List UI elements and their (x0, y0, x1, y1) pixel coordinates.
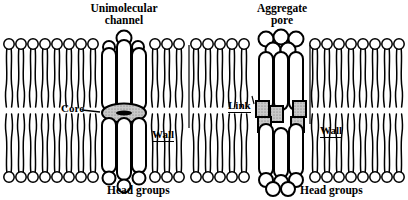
unimolecular-channel-title-line1: Unimolecular (76, 2, 172, 14)
diagram-canvas (0, 0, 408, 200)
head-groups-label-right: Head groups (300, 184, 363, 196)
membrane-channel-diagram: Unimolecular channel Aggregate pore Core… (0, 0, 408, 200)
aggregate-pore-title-line2: pore (238, 14, 326, 26)
upper-leaflet-lipids (4, 39, 404, 107)
lower-leaflet-lipids (4, 114, 404, 182)
wall-label-right: Wall (320, 125, 342, 138)
unimolecular-channel-title: Unimolecular channel (76, 2, 172, 26)
unimolecular-channel (82, 31, 146, 193)
aggregate-pore-title-line1: Aggregate (238, 2, 326, 14)
core-label: Core (61, 103, 84, 115)
wall-label-left: Wall (152, 129, 174, 142)
unimolecular-channel-title-line2: channel (76, 14, 172, 26)
aggregate-pore-title: Aggregate pore (238, 2, 326, 26)
link-label: Link (228, 100, 251, 113)
aggregate-pore (256, 30, 306, 197)
head-groups-label-left: Head groups (107, 184, 170, 196)
